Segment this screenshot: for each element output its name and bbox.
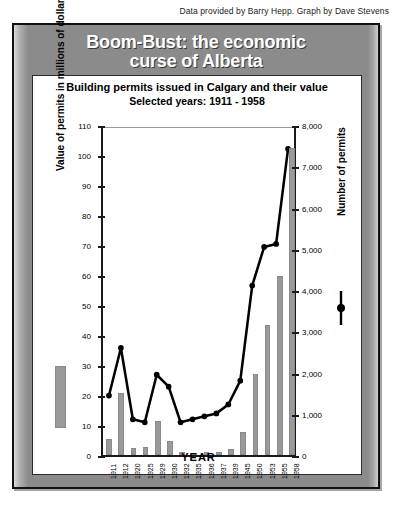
y-tick-right-6,000 — [292, 209, 299, 211]
poster-title: Boom-Bust: the economic curse of Alberta — [14, 33, 378, 71]
line-point-1937 — [214, 411, 220, 417]
y-label-left-60: 60 — [63, 272, 91, 281]
line-point-1939 — [226, 402, 232, 408]
bar-1929 — [155, 421, 161, 455]
y-label-right-7,000: 7,000 — [302, 163, 336, 172]
y-label-right-5,000: 5,000 — [302, 246, 336, 255]
y-tick-right-1,000 — [292, 415, 299, 417]
y-tick-right-0 — [292, 456, 299, 458]
line-point-1950 — [249, 283, 255, 289]
line-point-1935 — [190, 416, 196, 422]
x-label-1935: 1935 — [195, 463, 202, 479]
y-tick-left-80 — [98, 216, 105, 218]
line-legend-marker — [334, 291, 348, 325]
poster-frame: Boom-Bust: the economic curse of Alberta… — [12, 23, 380, 489]
y-tick-left-60 — [98, 276, 105, 278]
line-point-1920 — [130, 416, 136, 422]
credit-line: Data provided by Barry Hepp. Graph by Da… — [179, 6, 389, 16]
chart-title: Building permits issued in Calgary and t… — [33, 81, 361, 95]
line-point-1911 — [106, 393, 112, 399]
y-tick-left-100 — [98, 156, 105, 158]
y-label-right-3,000: 3,000 — [302, 328, 336, 337]
y-tick-left-90 — [98, 186, 105, 188]
y-tick-right-4,000 — [292, 291, 299, 293]
line-point-1953 — [261, 244, 267, 250]
y-axis-right-title: Number of permits — [336, 127, 347, 216]
line-point-1945 — [237, 378, 243, 384]
y-label-left-30: 30 — [63, 362, 91, 371]
y-label-left-20: 20 — [63, 392, 91, 401]
line-point-1955 — [273, 241, 279, 247]
bar-1953 — [265, 325, 271, 455]
y-tick-left-20 — [98, 396, 105, 398]
y-tick-right-5,000 — [292, 250, 299, 252]
y-tick-left-0 — [98, 456, 105, 458]
x-label-1950: 1950 — [256, 463, 263, 479]
x-label-1912: 1912 — [122, 463, 129, 479]
line-point-1929 — [154, 372, 160, 378]
x-label-1920: 1920 — [134, 463, 141, 479]
line-point-1936 — [202, 413, 208, 419]
x-label-1939: 1939 — [232, 463, 239, 479]
chart-subtitle: Selected years: 1911 - 1958 — [33, 95, 361, 108]
x-label-1930: 1930 — [171, 463, 178, 479]
y-label-right-0: 0 — [302, 452, 336, 461]
y-label-left-110: 110 — [63, 122, 91, 131]
x-label-1936: 1936 — [208, 463, 215, 479]
x-label-1945: 1945 — [244, 463, 251, 479]
bar-1955 — [277, 276, 283, 455]
y-label-right-6,000: 6,000 — [302, 205, 336, 214]
bar-1912 — [118, 393, 124, 455]
x-label-1953: 1953 — [269, 463, 276, 479]
y-label-left-90: 90 — [63, 182, 91, 191]
y-label-left-100: 100 — [63, 152, 91, 161]
y-tick-left-50 — [98, 306, 105, 308]
chart-card: Building permits issued in Calgary and t… — [32, 75, 362, 475]
y-tick-right-3,000 — [292, 332, 299, 334]
y-label-right-2,000: 2,000 — [302, 370, 336, 379]
y-axis-left-title: Value of permits in millions of dollars — [55, 0, 66, 171]
y-label-right-1,000: 1,000 — [302, 411, 336, 420]
y-label-right-8,000: 8,000 — [302, 122, 336, 131]
y-tick-left-70 — [98, 246, 105, 248]
y-label-left-40: 40 — [63, 332, 91, 341]
y-label-left-70: 70 — [63, 242, 91, 251]
y-label-left-0: 0 — [63, 452, 91, 461]
plot-area — [101, 127, 296, 457]
poster-title-line-1: Boom-Bust: the economic — [14, 33, 378, 52]
y-label-left-80: 80 — [63, 212, 91, 221]
x-label-1958: 1958 — [293, 463, 300, 479]
y-tick-right-8,000 — [292, 126, 299, 128]
x-label-1925: 1925 — [147, 463, 154, 479]
line-point-1932 — [178, 419, 184, 425]
poster-title-line-2: curse of Alberta — [14, 52, 378, 71]
x-label-1929: 1929 — [159, 463, 166, 479]
bar-1950 — [253, 374, 259, 455]
x-axis-title: YEAR — [101, 451, 296, 463]
y-tick-left-40 — [98, 336, 105, 338]
y-label-left-10: 10 — [63, 422, 91, 431]
y-tick-left-110 — [98, 126, 105, 128]
y-label-right-4,000: 4,000 — [302, 287, 336, 296]
x-label-1932: 1932 — [183, 463, 190, 479]
y-tick-left-10 — [98, 426, 105, 428]
x-label-1955: 1955 — [281, 463, 288, 479]
y-tick-right-7,000 — [292, 167, 299, 169]
line-point-1912 — [118, 345, 124, 351]
chart-title-block: Building permits issued in Calgary and t… — [33, 81, 361, 108]
y-tick-left-30 — [98, 366, 105, 368]
x-label-1937: 1937 — [220, 463, 227, 479]
line-point-1930 — [166, 384, 172, 390]
line-point-1925 — [142, 419, 148, 425]
y-tick-right-2,000 — [292, 374, 299, 376]
y-label-left-50: 50 — [63, 302, 91, 311]
x-label-1911: 1911 — [110, 464, 117, 479]
bar-1958 — [289, 148, 295, 455]
